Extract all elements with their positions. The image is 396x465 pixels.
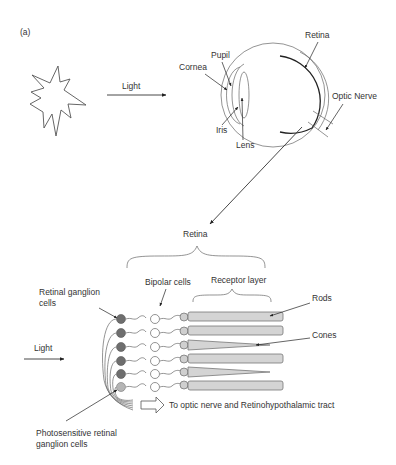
receptor-layer-label: Receptor layer [211, 275, 266, 285]
iprgc-label-line1: Photosensitive retinal [36, 428, 117, 438]
receptor-nucleus [180, 341, 188, 349]
light-arrow-top: Light [107, 81, 166, 95]
receptor-nucleus [180, 381, 188, 389]
bipolar-cell [151, 383, 160, 392]
row-1 [117, 312, 284, 324]
row-6 [117, 381, 284, 392]
bipolar-cells-label: Bipolar cells [145, 277, 191, 287]
row-3 [117, 340, 271, 352]
retina-arc [280, 56, 320, 133]
rgc-label-line2: cells [39, 298, 56, 308]
retinal-ganglion-cell [117, 343, 126, 352]
output-label: To optic nerve and Retinohypothalamic tr… [169, 400, 335, 410]
retina-brace [127, 246, 265, 268]
rod-cell [188, 312, 283, 321]
rod-cell [188, 381, 283, 390]
bipolar-cell [151, 357, 160, 366]
zoom-arrow [210, 127, 302, 224]
cornea [227, 67, 241, 124]
photosensitive-ganglion-cell [117, 383, 126, 392]
panel-label: (a) [20, 27, 31, 37]
lens-label: Lens [236, 140, 254, 150]
lens [239, 72, 249, 118]
bipolar-cell [151, 343, 160, 352]
rgc-label-line1: Retinal ganglion [39, 287, 100, 297]
receptor-nucleus [180, 355, 188, 363]
rods-label: Rods [312, 293, 332, 303]
receptor-brace [193, 289, 271, 302]
rod-cell [188, 354, 283, 363]
bipolar-cell [151, 315, 160, 324]
retina-label-bottom: Retina [183, 229, 208, 239]
bipolar-cell [151, 329, 160, 338]
light-label-top: Light [122, 81, 141, 91]
rod-cell [188, 326, 283, 335]
retina-rows [117, 312, 284, 392]
output-block-arrow-icon [141, 397, 164, 413]
receptor-nucleus [180, 313, 188, 321]
iris-label: Iris [216, 125, 227, 135]
light-source-star-icon [30, 66, 86, 136]
receptor-nucleus [180, 368, 188, 376]
eye-retina-diagram: (a) Light Pupil Cornea Iris Lens Retina … [0, 0, 396, 465]
retinal-ganglion-cell [117, 357, 126, 366]
eye [221, 43, 333, 147]
optic-nerve-label: Optic Nerve [332, 91, 377, 101]
iprgc-label-line2: ganglion cells [36, 439, 88, 449]
retinal-ganglion-cell [117, 315, 126, 324]
row-4 [117, 354, 284, 366]
light-label-bottom: Light [34, 343, 53, 353]
optic-nerve-lower [308, 122, 328, 137]
retinal-ganglion-cell [117, 370, 126, 379]
retina-label-top: Retina [305, 30, 330, 40]
cones-label: Cones [312, 330, 337, 340]
cornea-label: Cornea [179, 62, 207, 72]
bipolar-cell [151, 370, 160, 379]
row-5 [117, 367, 271, 379]
row-2 [117, 326, 284, 338]
receptor-nucleus [180, 327, 188, 335]
pupil-label: Pupil [211, 50, 230, 60]
retinal-ganglion-cell [117, 329, 126, 338]
cone-cell [188, 367, 270, 377]
